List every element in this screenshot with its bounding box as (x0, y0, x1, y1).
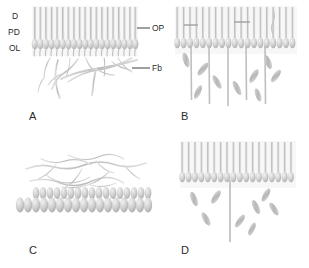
spindle-cell-group-d (188, 187, 280, 236)
nerve-fiber-plexus-a (38, 58, 137, 98)
panel-c: C (0, 135, 168, 268)
label-ol: OL (9, 43, 20, 53)
bulb-row-front-c (16, 198, 152, 213)
panel-a: D PD OL OP Fb A (0, 0, 168, 135)
panel-d: D (168, 135, 309, 268)
panel-b: B (168, 0, 309, 135)
panel-b-illustration (168, 0, 309, 135)
panel-a-illustration (0, 0, 168, 135)
fiber-network-c (26, 154, 146, 187)
figure-canvas: D PD OL OP Fb A (0, 0, 309, 268)
label-op: OP (152, 23, 164, 33)
label-d: D (12, 11, 18, 21)
panel-c-illustration (0, 135, 168, 268)
panel-letter-c: C (29, 244, 37, 256)
panel-letter-b: B (181, 110, 189, 122)
label-fb: Fb (152, 63, 162, 73)
panel-letter-a: A (29, 110, 37, 122)
bulb-row-back-c (33, 187, 152, 199)
panel-letter-d: D (181, 244, 189, 256)
spindle-cell-group-b (181, 52, 283, 102)
label-pd: PD (8, 27, 20, 37)
